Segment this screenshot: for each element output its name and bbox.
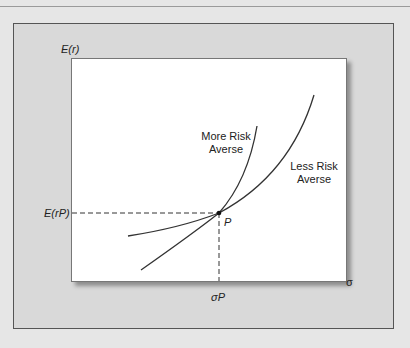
less-risk-averse-line1: Less Risk — [284, 160, 344, 173]
y-tick-label: E(rP) — [44, 207, 70, 219]
point-p — [217, 211, 222, 216]
more-risk-averse-line1: More Risk — [196, 130, 256, 143]
y-axis-label: E(r) — [61, 43, 79, 55]
less-risk-averse-label: Less Risk Averse — [284, 160, 344, 186]
x-tick-label: σP — [211, 291, 225, 303]
point-p-label: P — [224, 216, 231, 228]
x-axis-label: σ — [346, 276, 353, 288]
more-risk-averse-label: More Risk Averse — [196, 130, 256, 156]
less-risk-averse-line2: Averse — [284, 173, 344, 186]
more-risk-averse-line2: Averse — [196, 143, 256, 156]
